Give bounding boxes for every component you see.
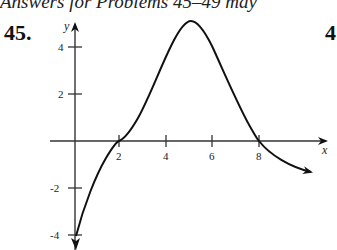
- y-tick-label: 2: [58, 88, 64, 100]
- y-axis-label: y: [63, 19, 70, 33]
- x-axis-label: x: [321, 143, 328, 157]
- x-tick-label: 6: [209, 150, 215, 162]
- y-tick-label: -4: [50, 229, 60, 241]
- y-tick-label: 4: [58, 41, 64, 53]
- function-graph: 2 4 6 8 4 2 -2 -4 x y: [0, 0, 337, 250]
- function-curve: [76, 21, 311, 236]
- x-tick-label: 4: [163, 150, 169, 162]
- x-tick-label: 8: [256, 150, 262, 162]
- axes: [50, 24, 326, 250]
- y-tick-label: -2: [50, 182, 59, 194]
- x-tick-label: 2: [116, 150, 122, 162]
